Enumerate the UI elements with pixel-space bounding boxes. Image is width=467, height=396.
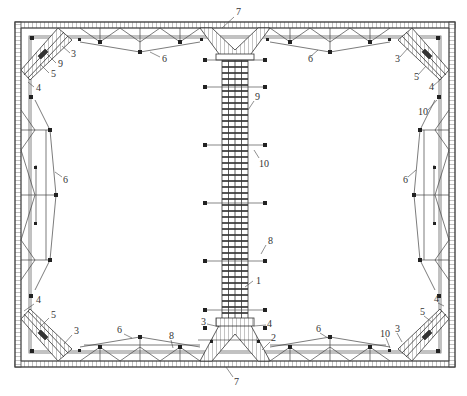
leader-line: [55, 172, 62, 177]
leader-line: [408, 170, 416, 177]
callout-label: 10: [418, 106, 428, 117]
leader-line: [320, 333, 328, 338]
callout-label: 3: [71, 48, 76, 59]
callout-label: 4: [36, 294, 41, 305]
callout-label: 9: [58, 58, 63, 69]
top-truss-braces: [80, 28, 390, 52]
callout-label: 5: [51, 68, 56, 79]
leader-line: [171, 340, 173, 348]
callout-label: 6: [308, 53, 313, 64]
callout-label: 3: [395, 53, 400, 64]
callout-label: 2: [271, 332, 276, 343]
leader-line: [418, 66, 426, 75]
callout-label: 9: [255, 91, 260, 102]
callout-label: 5: [420, 306, 425, 317]
leader-line: [397, 333, 402, 342]
callout-label: 7: [234, 376, 239, 387]
leader-line: [400, 48, 408, 57]
leader-line: [261, 245, 266, 254]
callout-label: 6: [117, 324, 122, 335]
leader-line: [64, 335, 72, 344]
leader-line: [262, 342, 270, 350]
callout-label: 6: [403, 174, 408, 185]
callout-label: 3: [74, 325, 79, 336]
callout-label: 4: [36, 82, 41, 93]
central-strut: [198, 28, 272, 361]
leader-line: [150, 52, 160, 57]
callout-label: 6: [162, 53, 167, 64]
callout-label: 3: [201, 316, 206, 327]
callout-label: 10: [259, 158, 269, 169]
leader-line: [254, 150, 259, 158]
callout-label: 6: [316, 323, 321, 334]
leader-line: [428, 100, 437, 110]
leader-line: [254, 325, 266, 326]
callout-label: 5: [51, 309, 56, 320]
callout-label: 10: [380, 328, 390, 339]
callout-label: 5: [414, 71, 419, 82]
leader-line: [62, 46, 70, 53]
callout-label: 4: [429, 81, 434, 92]
callout-label: 4: [434, 293, 439, 304]
bottom-truss-braces: [80, 337, 390, 361]
callout-label: 3: [395, 323, 400, 334]
callout-label: 7: [236, 6, 241, 17]
callout-label: 8: [268, 235, 273, 246]
callout-label: 1: [256, 275, 261, 286]
leader-line: [226, 367, 233, 377]
callout-label: 8: [169, 330, 174, 341]
callout-label: 4: [267, 318, 272, 329]
leader-line: [248, 101, 254, 110]
callout-label: 6: [63, 174, 68, 185]
leader-line: [124, 334, 132, 338]
structural-plan-diagram: 7395466354109106681453683426103457: [0, 0, 467, 396]
